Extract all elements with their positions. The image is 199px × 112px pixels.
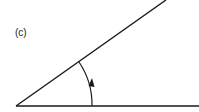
figure-label: (c) — [15, 27, 27, 38]
angle-diagram: (c) — [0, 0, 199, 112]
